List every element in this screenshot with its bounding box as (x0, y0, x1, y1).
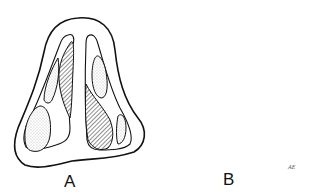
diagram-canvas (0, 0, 312, 196)
artist-signature: AE (288, 164, 295, 170)
hatched-region-a1 (59, 42, 74, 118)
panel-label-b: B (223, 170, 234, 190)
panel-label-a: A (64, 172, 75, 192)
stipple-region-a1 (25, 106, 51, 151)
stipple-region-a4 (117, 115, 127, 144)
stipple-region-a3 (92, 56, 107, 98)
panel-a (15, 18, 145, 167)
